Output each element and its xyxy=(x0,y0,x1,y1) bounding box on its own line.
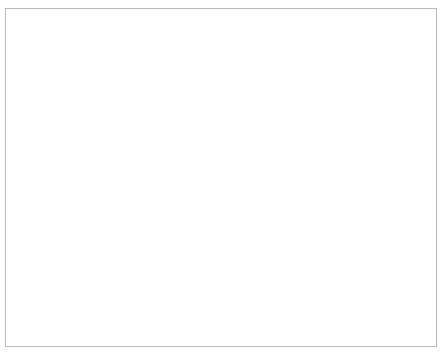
figure-outer-frame xyxy=(5,8,437,347)
figure-container: 2.01.00.0−1.0−2.0 −3.0−2.0−1.00.01.02.03… xyxy=(0,0,440,357)
